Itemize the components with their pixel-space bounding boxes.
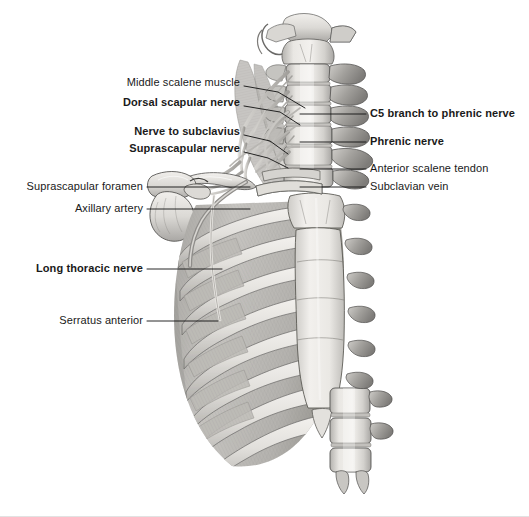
label-middle-scalene-muscle: Middle scalene muscle — [127, 76, 240, 89]
label-suprascapular-nerve: Suprascapular nerve — [129, 142, 240, 155]
label-phrenic-nerve: Phrenic nerve — [370, 135, 444, 148]
label-nerve-to-subclavius: Nerve to subclavius — [134, 125, 240, 138]
label-anterior-scalene-tendon: Anterior scalene tendon — [370, 162, 489, 175]
anatomy-illustration — [0, 0, 529, 517]
label-subclavian-vein: Subclavian vein — [370, 180, 449, 193]
label-serratus-anterior: Serratus anterior — [59, 314, 143, 327]
label-long-thoracic-nerve: Long thoracic nerve — [36, 262, 143, 275]
label-c5-branch-to-phrenic-nerve: C5 branch to phrenic nerve — [370, 107, 515, 120]
label-axillary-artery: Axillary artery — [75, 202, 143, 215]
anatomy-figure: Middle scalene muscleDorsal scapular ner… — [0, 0, 529, 517]
label-suprascapular-foramen: Suprascapular foramen — [27, 180, 143, 193]
label-dorsal-scapular-nerve: Dorsal scapular nerve — [123, 96, 240, 109]
